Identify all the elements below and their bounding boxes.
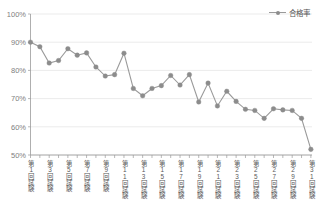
data-point	[168, 73, 173, 78]
data-point	[159, 83, 164, 88]
data-point	[103, 74, 108, 79]
y-tick-label: 80%	[11, 66, 26, 75]
y-tick-label: 50%	[11, 151, 26, 160]
data-point	[299, 116, 304, 121]
x-axis-tickmarks	[31, 155, 311, 158]
series-markers-gokakuritsu	[28, 40, 313, 152]
data-point	[28, 40, 33, 45]
data-point	[206, 81, 211, 86]
y-tick-label: 100%	[7, 10, 27, 19]
data-point	[56, 58, 61, 63]
data-point	[38, 44, 43, 49]
data-point	[47, 61, 52, 66]
legend: 合格率	[269, 7, 310, 18]
data-point	[262, 116, 267, 121]
data-point	[187, 72, 192, 77]
line-chart: 50%60%70%80%90%100% 第1回試験第3回試験第5回試験第7回試験…	[0, 0, 318, 213]
data-point	[122, 51, 127, 56]
data-point	[84, 51, 89, 56]
data-point	[281, 108, 286, 113]
y-axis-tick-labels: 50%60%70%80%90%100%	[7, 10, 27, 160]
data-point	[196, 100, 201, 105]
data-point	[271, 106, 276, 111]
data-point	[243, 107, 248, 112]
y-tick-label: 70%	[11, 94, 26, 103]
legend-label-gokakuritsu: 合格率	[289, 7, 310, 18]
legend-line-marker-icon	[269, 9, 286, 16]
series-line-gokakuritsu	[31, 42, 311, 149]
data-point	[234, 99, 239, 104]
data-point	[224, 89, 229, 94]
gridlines-group	[28, 14, 312, 155]
data-point	[140, 93, 145, 98]
data-point	[178, 83, 183, 88]
chart-canvas: 50%60%70%80%90%100%	[0, 0, 318, 213]
y-tick-label: 60%	[11, 123, 26, 132]
data-point	[290, 108, 295, 113]
y-tick-label: 90%	[11, 38, 26, 47]
data-point	[66, 46, 71, 51]
data-point	[94, 65, 99, 70]
data-point	[75, 53, 80, 58]
data-point	[253, 108, 258, 113]
data-point	[131, 86, 136, 91]
data-point	[309, 147, 314, 152]
data-point	[112, 72, 117, 77]
data-point	[150, 86, 155, 91]
data-point	[215, 104, 220, 109]
